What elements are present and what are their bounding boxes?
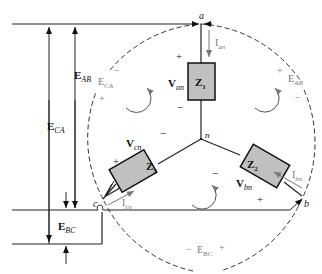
node-c-label: c <box>93 198 98 209</box>
ebc-loop-label: EBC <box>197 244 212 258</box>
node-b-label: b <box>304 198 309 209</box>
eab-loop-plus: + <box>277 65 283 76</box>
van-minus: − <box>177 101 183 113</box>
van-plus: + <box>176 50 182 62</box>
y-load-circuit-diagram: a n c b Z1 Z3 Z2 Van Vcn Vbn Ian Icn Ibn… <box>0 0 322 274</box>
ibn-label: Ibn <box>292 169 303 183</box>
vbn-plus: + <box>257 193 263 205</box>
vcn-plus: + <box>113 155 119 167</box>
vbn-minus: − <box>212 167 218 179</box>
vcn-label: Vcn <box>126 137 142 152</box>
node-n <box>200 138 202 140</box>
eab-left-label: EAB <box>74 69 91 84</box>
van-label: Van <box>168 77 184 92</box>
rotation-arrow-left <box>126 88 151 112</box>
vbn-label: Vbn <box>236 177 252 192</box>
node-n-label: n <box>205 130 210 140</box>
ebc-loop-minus: − <box>186 244 192 255</box>
eca-loop-minus: − <box>114 65 120 76</box>
eca-left-label: ECA <box>47 120 65 135</box>
eca-loop-label: ECA <box>98 76 114 90</box>
eca-loop-plus: + <box>99 93 105 104</box>
rotation-arrow-right <box>255 88 279 112</box>
rotation-arrow-bottom <box>192 185 216 209</box>
ian-label: Ian <box>215 37 226 51</box>
eab-loop-label: EAB <box>288 73 303 87</box>
eab-loop-minus: − <box>295 92 301 103</box>
ebc-loop-plus: + <box>219 242 225 253</box>
ebc-left-label: EBC <box>58 220 76 235</box>
icn-label: Icn <box>122 197 132 211</box>
vcn-minus: − <box>160 127 166 139</box>
node-a-label: a <box>199 10 204 21</box>
